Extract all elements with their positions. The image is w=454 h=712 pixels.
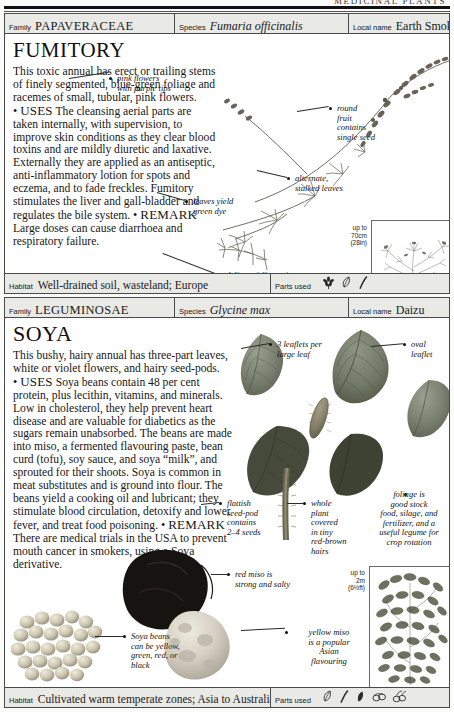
scale-box-soya: [369, 566, 449, 687]
species-label: Species: [179, 302, 206, 316]
callout-dot: [123, 635, 126, 638]
uses-label: USES: [20, 103, 53, 118]
sprout-icon: [392, 690, 407, 703]
scale-caption-fumitory: up to 70cm (28in): [335, 224, 367, 247]
entry-body-soya: SOYA This bushy, hairy annual has three-…: [5, 318, 449, 687]
remark-text: Large doses can cause diarrhoea and resp…: [13, 222, 182, 248]
callout-whole-plant-hairs: whole plant covered in tiny red-brown ha…: [311, 499, 365, 557]
seed-icon: [355, 690, 366, 703]
entry-soya: Family LEGUMINOSAE Species Glycine max L…: [4, 297, 450, 708]
remark-label: REMARK: [140, 207, 197, 222]
callout-dot: [403, 343, 406, 346]
prose-fumitory: This toxic annual has erect or trailing …: [13, 66, 219, 249]
local-name-cell: Local name Earth Smoke: [349, 14, 449, 33]
illustration-soya-beans: [11, 606, 123, 687]
callout-leader: [257, 170, 287, 178]
local-name-value: Earth Smoke: [396, 14, 449, 33]
page-top-rule: [4, 6, 450, 9]
callout-dot: [109, 77, 112, 80]
callout-leader: [163, 253, 218, 273]
habitat-value: Cultivated warm temperate zones; Asia to…: [38, 688, 271, 705]
habitat-label: Habitat: [9, 277, 33, 291]
callout-alternate-leaves: alternate, stalked leaves: [295, 174, 393, 193]
callout-3-leaflets: 3 leaflets per large leaf: [277, 340, 359, 359]
callout-yellow-miso: yellow miso is a popular Asian flavourin…: [293, 628, 365, 666]
family-value: PAPAVERACEAE: [35, 14, 133, 33]
callout-dot: [329, 107, 332, 110]
bean-icon: [372, 690, 386, 703]
prose-soya: This bushy, hairy annual has three-part …: [13, 350, 235, 571]
uses-text: The cleansing aerial parts are taken int…: [13, 105, 215, 222]
callout-leader: [297, 106, 329, 112]
taxonomy-bar-fumitory: Family PAPAVERACEAE Species Fumaria offi…: [5, 14, 449, 34]
page-title-soya: SOYA: [13, 323, 72, 345]
callout-soya-beans-colours: Soya beans can be yellow, green, red, or…: [131, 632, 213, 670]
habit-sketch-soya: [370, 567, 449, 687]
parts-used-cell: Parts used: [271, 274, 449, 293]
species-label: Species: [179, 18, 206, 32]
uses-text: Soya beans contain 48 per cent protein, …: [13, 376, 232, 532]
entry-body-fumitory: FUMITORY This toxic annual has erect or …: [5, 34, 449, 273]
uses-label: USES: [20, 374, 53, 389]
flower-icon: [322, 276, 335, 289]
habit-sketch-fumitory: [372, 221, 449, 273]
callout-dot: [185, 200, 188, 203]
leaf-icon: [341, 276, 352, 289]
parts-used-label: Parts used: [275, 691, 311, 705]
book-page: MEDICINAL PLANTS Family PAPAVERACEAE Spe…: [0, 0, 454, 712]
local-name-value: Daizu: [396, 298, 425, 317]
callout-pink-flowers: pink flowers with purple tips: [117, 74, 209, 93]
callout-red-miso: red miso is strong and salty: [235, 570, 319, 589]
callout-dot: [227, 573, 230, 576]
stem-icon: [358, 276, 368, 289]
callout-leader: [371, 343, 403, 347]
callout-oval-leaflet: oval leaflet: [411, 340, 449, 359]
habitat-label: Habitat: [9, 691, 33, 705]
taxonomy-bar-soya: Family LEGUMINOSAE Species Glycine max L…: [5, 298, 449, 318]
callout-flattish-seed-pod: flattish seed-pod contains 2–4 seeds: [227, 499, 287, 537]
habitat-value: Well-drained soil, wasteland; Europe: [38, 274, 208, 291]
leaf-icon: [322, 690, 333, 703]
callout-dot: [219, 502, 222, 505]
callout-dot: [287, 177, 290, 180]
remark-label: REMARK: [168, 517, 225, 532]
scale-box-fumitory: [371, 220, 449, 273]
intro-text: This bushy, hairy annual has three-part …: [13, 349, 228, 375]
family-cell: Family LEGUMINOSAE: [5, 298, 175, 317]
family-value: LEGUMINOSAE: [35, 298, 129, 317]
scale-caption-soya: up to 2m (6½ft): [333, 569, 365, 592]
callout-leader: [211, 574, 227, 575]
species-cell: Species Fumaria officinalis: [175, 14, 349, 33]
habitat-bar-fumitory: Habitat Well-drained soil, wasteland; Eu…: [5, 273, 449, 293]
parts-used-label: Parts used: [275, 277, 311, 291]
callout-leader: [287, 503, 303, 504]
callout-leaves-green-dye: leaves yield green dye: [193, 197, 279, 216]
callout-dot: [404, 493, 407, 496]
callout-dot: [285, 631, 288, 634]
family-label: Family: [9, 302, 31, 316]
page-title-fumitory: FUMITORY: [13, 40, 125, 61]
local-name-label: Local name: [353, 302, 392, 316]
family-cell: Family PAPAVERACEAE: [5, 14, 175, 33]
entry-fumitory: Family PAPAVERACEAE Species Fumaria offi…: [4, 13, 450, 294]
local-name-cell: Local name Daizu: [349, 298, 449, 317]
callout-dot: [303, 502, 306, 505]
remark-text: There are medical trials in the USA to p…: [13, 532, 227, 571]
parts-used-icons: [322, 274, 368, 289]
callout-leader: [95, 636, 123, 637]
species-value: Glycine max: [210, 298, 270, 317]
parts-used-cell: Parts used: [271, 688, 449, 707]
callout-leader: [241, 343, 270, 349]
page-top-rule-thin: [4, 11, 450, 12]
habitat-bar-soya: Habitat Cultivated warm temperate zones;…: [5, 687, 449, 707]
parts-used-icons: [322, 688, 407, 703]
stem-icon: [339, 690, 349, 703]
habitat-cell: Habitat Cultivated warm temperate zones;…: [5, 688, 271, 707]
callout-foliage-stock-food: foliage is good stock food, silage, and …: [361, 490, 449, 548]
species-value: Fumaria officinalis: [210, 14, 303, 33]
family-label: Family: [9, 18, 31, 32]
species-cell: Species Glycine max: [175, 298, 349, 317]
habitat-cell: Habitat Well-drained soil, wasteland; Eu…: [5, 274, 271, 293]
callout-leader: [241, 628, 285, 631]
callout-round-fruit: round fruit contains single seed: [337, 104, 411, 142]
